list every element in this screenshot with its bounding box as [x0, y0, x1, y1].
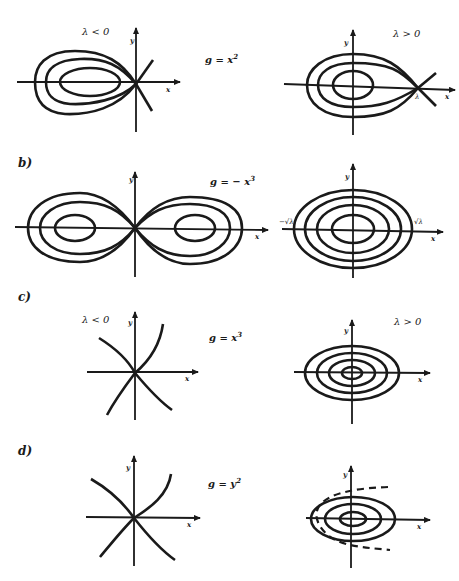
panel-c-right-portrait [294, 320, 430, 424]
panel-d-right-xlabel: x [417, 522, 421, 531]
panel-a-left-portrait [17, 28, 180, 132]
panel-c-equation-exponent: 3 [237, 330, 242, 339]
panel-a-equation-exponent: 2 [233, 52, 238, 61]
panel-d-left-portrait [86, 456, 200, 566]
panel-a-right-condition: λ > 0 [393, 28, 420, 39]
panel-b-equation: g = − x3 [210, 174, 255, 187]
panel-b-right-neg-tick: −√λ [279, 218, 294, 226]
panel-a-left-xlabel: x [166, 85, 170, 94]
panel-c-right-condition: λ > 0 [394, 316, 421, 327]
panel-a-right-point-label: λ [415, 93, 419, 101]
panel-b-right-pos-tick: √λ [414, 218, 423, 226]
panel-c-left-xlabel: x [185, 374, 189, 383]
panel-d-label: d) [18, 444, 32, 458]
phase-portraits-figure [0, 0, 459, 581]
panel-d-equation: g = y2 [208, 476, 241, 489]
panel-c-right-xlabel: x [418, 375, 422, 384]
panel-a-left-ylabel: y [130, 36, 134, 45]
panel-d-equation-exponent: 2 [236, 476, 241, 485]
panel-b-label: b) [18, 156, 32, 170]
panel-b-right-xlabel: x [431, 234, 435, 243]
panel-d-left-xlabel: x [187, 520, 191, 529]
panel-b-equation-base: g = − x [210, 176, 250, 187]
panel-d-left-ylabel: y [126, 463, 130, 472]
panel-a-right-portrait [284, 30, 455, 135]
panel-b-equation-exponent: 3 [250, 174, 255, 183]
panel-a-right-xlabel: x [445, 92, 449, 101]
panel-a-equation: g = x2 [205, 52, 238, 65]
panel-c-right-ylabel: y [344, 326, 348, 335]
panel-d-equation-base: g = y [208, 478, 236, 489]
panel-a-left-condition: λ < 0 [82, 26, 109, 37]
panel-c-left-condition: λ < 0 [82, 314, 109, 325]
panel-c-left-portrait [87, 312, 198, 420]
panel-b-right-ylabel: y [345, 172, 349, 181]
panel-c-left-ylabel: y [128, 318, 132, 327]
panel-c-label: c) [18, 290, 31, 304]
panel-c-equation: g = x3 [209, 330, 242, 343]
panel-b-left-xlabel: x [255, 232, 259, 241]
panel-b-left-portrait [15, 172, 268, 277]
panel-a-right-ylabel: y [344, 38, 348, 47]
panel-d-right-ylabel: y [343, 470, 347, 479]
panel-b-left-ylabel: y [129, 175, 133, 184]
panel-c-equation-base: g = x [209, 332, 237, 343]
panel-a-equation-base: g = x [205, 54, 233, 65]
panel-d-right-portrait [306, 466, 430, 568]
